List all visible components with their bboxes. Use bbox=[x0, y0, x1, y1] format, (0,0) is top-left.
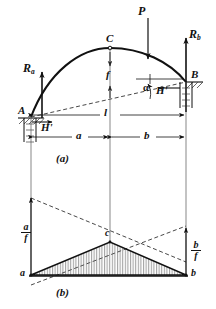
influence-triangle-hatch bbox=[29, 238, 189, 278]
ordinate-right-numerator: b bbox=[190, 240, 202, 250]
support-right-hatch bbox=[180, 82, 203, 108]
node-c-label: c bbox=[105, 228, 109, 238]
ordinate-left-numerator: a bbox=[20, 222, 32, 232]
panel-b-caption: (b) bbox=[56, 286, 69, 298]
load-P-label: P bbox=[138, 5, 145, 17]
arch-rib-curve bbox=[31, 48, 186, 117]
span-l-label: l bbox=[104, 107, 107, 118]
figure-svg bbox=[0, 0, 216, 309]
thrust-left-label: H' bbox=[41, 122, 53, 133]
figure-container: P Ra Rb A B C H' H' f l a b α (a) a f b … bbox=[0, 0, 216, 309]
ordinate-left-fraction: a f bbox=[20, 222, 32, 243]
support-A-label: A bbox=[18, 105, 25, 116]
panel-a-caption: (a) bbox=[56, 152, 69, 164]
ordinate-left-denominator: f bbox=[20, 233, 32, 243]
node-b-label: b bbox=[191, 268, 196, 278]
ordinate-right-denominator: f bbox=[190, 251, 202, 261]
reaction-Ra-label: Ra bbox=[23, 62, 35, 75]
thrust-right-label: H' bbox=[156, 85, 168, 96]
support-B-label: B bbox=[191, 69, 198, 80]
rise-f-label: f bbox=[106, 69, 110, 80]
angle-alpha-label: α bbox=[143, 83, 149, 93]
dim-b-label: b bbox=[144, 130, 150, 141]
node-c-marker bbox=[109, 241, 112, 244]
crown-C-label: C bbox=[106, 33, 113, 44]
node-a-marker bbox=[29, 273, 32, 276]
node-b-marker bbox=[184, 273, 187, 276]
ordinate-right-fraction: b f bbox=[190, 240, 202, 261]
dim-a-label: a bbox=[76, 130, 82, 141]
reaction-Rb-label: Rb bbox=[189, 28, 201, 41]
node-a-label: a bbox=[20, 268, 25, 278]
